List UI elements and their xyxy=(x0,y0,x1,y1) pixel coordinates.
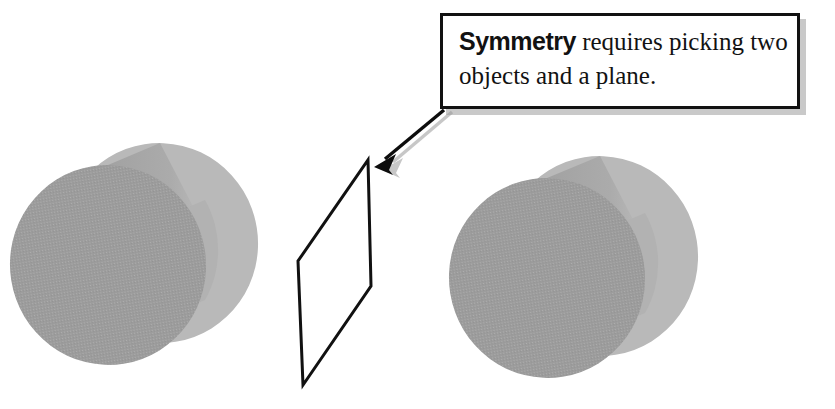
diagram-canvas: Symmetry requires picking two objects an… xyxy=(0,0,835,409)
callout-arrow-shadow xyxy=(382,112,452,178)
pointer-layer xyxy=(0,0,835,409)
callout-arrow xyxy=(374,110,444,175)
